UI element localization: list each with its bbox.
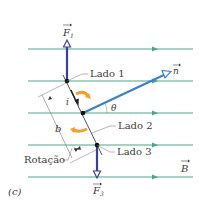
b-field-label: B: [180, 163, 188, 174]
rotation-arrow-top: [76, 92, 88, 96]
rotation-label: Rotação: [24, 154, 65, 165]
lado2-point: [81, 111, 86, 116]
b-field-label-group: B: [180, 160, 190, 175]
width-label: b: [55, 123, 61, 134]
lado1-label: Lado 1: [90, 68, 125, 79]
normal-label: n: [173, 66, 179, 76]
side-labels: Lado 1 Lado 2 Lado 3 Rotação: [24, 68, 153, 165]
lado2-label: Lado 2: [118, 120, 153, 131]
lado3-label: Lado 3: [117, 146, 152, 157]
magnetic-torque-diagram: b i F1 F3 n θ: [0, 0, 202, 216]
force-f1: F1: [62, 24, 74, 82]
angle-label: θ: [111, 103, 117, 113]
panel-label: (c): [8, 186, 22, 197]
angle-theta: θ: [105, 103, 117, 113]
f3-label: F3: [92, 185, 104, 197]
f1-label: F1: [62, 27, 74, 39]
force-f3: F3: [92, 145, 104, 197]
rotation-arrow-bottom: [73, 129, 87, 131]
current-label: i: [66, 97, 69, 107]
